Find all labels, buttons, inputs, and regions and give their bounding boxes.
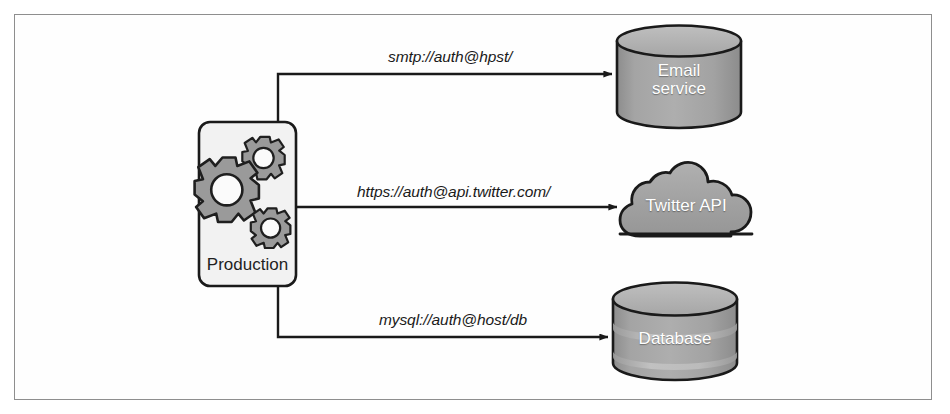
edge-label-smtp: smtp://auth@hpst/ [388,48,512,66]
production-node-label: Production [199,255,296,275]
email-cylinder-top [617,26,741,57]
connector-smtp [278,74,612,131]
twitter-cloud-shape [620,162,751,236]
node-twitter-api[interactable] [620,162,752,236]
edge-label-mysql: mysql://auth@host/db [379,311,527,329]
node-database[interactable] [613,283,737,381]
node-email-service[interactable] [617,26,741,129]
edge-label-https: https://auth@api.twitter.com/ [357,183,550,201]
database-cylinder-top [613,283,737,316]
figure-root: Production smtp://auth@hpst/ https://aut… [0,0,950,414]
